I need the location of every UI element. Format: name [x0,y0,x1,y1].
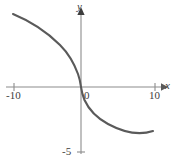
graph-figure: -10 10 0 -5 y x [0,0,174,161]
plot-canvas [0,0,174,161]
function-curve [13,14,153,133]
x-axis-tick-label-max: 10 [149,90,160,101]
origin-label: 0 [84,90,90,101]
y-axis-label: y [77,1,82,12]
y-axis-tick-label-min: -5 [62,146,71,157]
x-axis-label: x [165,80,170,91]
x-axis-tick-label-min: -10 [6,90,21,101]
